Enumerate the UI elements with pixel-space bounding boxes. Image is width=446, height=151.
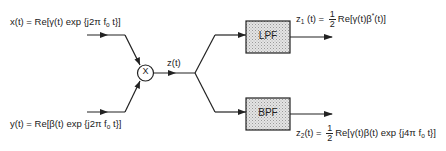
x-input-path [87,35,140,65]
product-arrow-icon [168,70,176,76]
into-bpf-arrow-icon [238,109,246,115]
z1-output-label: z1 (t) = 12Re[γ(t)β*(t)] [296,10,386,29]
lpf-output-arrow-icon [324,34,333,40]
x-input-arrow-icon [100,32,108,38]
into-lpf-arrow-icon [238,32,246,38]
multiplier-symbol: X [139,66,152,76]
z2-output-label: z2(t) = 12Re[γ(t)β(t) exp {j4π fo t}] [296,124,436,143]
x-input-label: x(t) = Re[γ(t) exp {j2π fo t}] [10,16,121,28]
y-input-arrow-icon [100,109,108,115]
y-input-label: y(t) = Re[β(t) exp {j2π fo t}] [10,118,121,130]
lpf-label: LPF [246,30,290,41]
y-input-path [87,81,140,112]
z2-fraction: 12 [326,124,333,143]
product-path [154,35,247,112]
product-label: z(t) [167,57,181,68]
bpf-output-arrow-icon [324,111,333,117]
z1-fraction: 12 [329,10,336,29]
output-paths [290,37,332,114]
bpf-label: BPF [246,107,290,118]
